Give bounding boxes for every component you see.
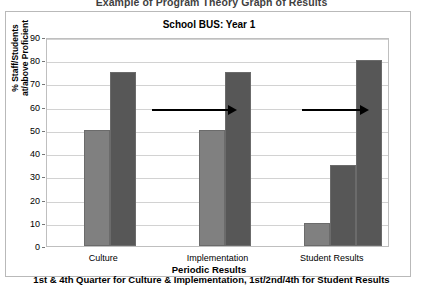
y-axis-tick-mark [42, 84, 45, 85]
y-axis-tick-mark [42, 131, 45, 132]
y-axis-tick-mark [42, 108, 45, 109]
bar [110, 72, 136, 246]
gridline [47, 62, 388, 63]
x-axis-category-label: Implementation [160, 253, 274, 263]
bar [84, 130, 110, 246]
gridline [47, 85, 388, 86]
arrow-annotation-shaft [302, 109, 360, 111]
bar [304, 223, 330, 246]
y-axis-tick-label: 90 [10, 34, 40, 43]
arrow-annotation-head [360, 105, 369, 115]
y-axis-tick-label: 70 [10, 80, 40, 89]
y-axis-tick-mark [42, 247, 45, 248]
x-axis-category-label: Culture [46, 253, 160, 263]
y-axis-tick-mark [42, 201, 45, 202]
y-axis-tick-label: 0 [10, 243, 40, 252]
x-axis-subtitle: 1st & 4th Quarter for Culture & Implemen… [0, 274, 423, 285]
bar [330, 165, 356, 246]
y-axis-tick-mark [42, 177, 45, 178]
arrow-annotation-shaft [152, 109, 228, 111]
plot-area [46, 38, 389, 247]
y-axis-tick-label: 50 [10, 127, 40, 136]
y-axis-tick-label: 20 [10, 197, 40, 206]
x-axis-category-label: Student Results [275, 253, 389, 263]
y-axis-tick-label: 60 [10, 104, 40, 113]
y-axis-tick-mark [42, 224, 45, 225]
y-axis-tick-mark [42, 154, 45, 155]
document-title: Example of Program Theory Graph of Resul… [0, 0, 423, 8]
y-axis-tick-label: 40 [10, 150, 40, 159]
arrow-annotation-head [228, 105, 237, 115]
y-axis-tick-label: 80 [10, 57, 40, 66]
bar [356, 60, 382, 246]
gridline [47, 39, 388, 40]
y-axis-tick-label: 10 [10, 220, 40, 229]
y-axis-tick-label: 30 [10, 173, 40, 182]
chart-title: School BUS: Year 1 [6, 19, 412, 30]
bar [199, 130, 225, 246]
y-axis-tick-mark [42, 38, 45, 39]
chart-frame: School BUS: Year 1 % Staff/Students at/a… [5, 11, 411, 277]
bar [225, 72, 251, 246]
y-axis-tick-mark [42, 61, 45, 62]
